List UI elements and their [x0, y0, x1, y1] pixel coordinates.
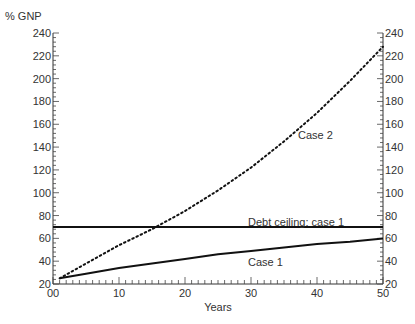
- label-case2: Case 2: [298, 129, 333, 141]
- y-tick-label-left: 220: [33, 50, 51, 62]
- y-tick-label-left: 180: [33, 95, 51, 107]
- y-tick-label-left: 80: [39, 210, 51, 222]
- y-tick-label-right: 180: [385, 95, 403, 107]
- x-tick-label: 10: [113, 287, 125, 299]
- y-tick-label-right: 40: [385, 255, 397, 267]
- x-tick-label: 00: [47, 287, 59, 299]
- x-tick-label: 20: [179, 287, 191, 299]
- ticks: 2020404060608080100100120120140140160160…: [33, 27, 404, 299]
- y-tick-label-left: 60: [39, 232, 51, 244]
- label-case1: Case 1: [248, 256, 283, 268]
- axes: [53, 33, 383, 284]
- y-tick-label-right: 240: [385, 27, 403, 39]
- y-tick-label-right: 100: [385, 187, 403, 199]
- y-tick-label-left: 100: [33, 187, 51, 199]
- debt-chart: 2020404060608080100100120120140140160160…: [0, 0, 415, 324]
- y-tick-label-left: 240: [33, 27, 51, 39]
- y-tick-label-right: 160: [385, 118, 403, 130]
- x-tick-label: 30: [245, 287, 257, 299]
- x-tick-label: 40: [311, 287, 323, 299]
- series: [53, 47, 383, 279]
- y-tick-label-right: 120: [385, 164, 403, 176]
- label-debt-ceiling: Debt ceiling: case 1: [248, 216, 344, 228]
- y-tick-label-right: 200: [385, 73, 403, 85]
- y-tick-label-right: 140: [385, 141, 403, 153]
- y-tick-label-right: 60: [385, 232, 397, 244]
- series-case-1: [60, 238, 383, 278]
- y-tick-label-left: 140: [33, 141, 51, 153]
- x-tick-label: 50: [377, 287, 389, 299]
- y-tick-label-right: 220: [385, 50, 403, 62]
- y-tick-label-left: 40: [39, 255, 51, 267]
- y-axis-label: % GNP: [5, 10, 42, 22]
- y-tick-label-left: 120: [33, 164, 51, 176]
- y-tick-label-left: 160: [33, 118, 51, 130]
- y-tick-label-left: 200: [33, 73, 51, 85]
- x-axis-label: Years: [204, 301, 232, 313]
- y-tick-label-right: 80: [385, 210, 397, 222]
